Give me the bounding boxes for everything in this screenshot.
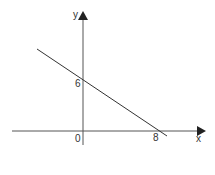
y-axis-label: y xyxy=(73,9,78,20)
graph: y x 6 0 8 xyxy=(0,0,215,175)
y-axis-arrow-icon xyxy=(78,11,88,20)
x-intercept-label: 8 xyxy=(153,132,159,143)
graph-line xyxy=(37,49,167,136)
origin-label: 0 xyxy=(75,133,81,144)
x-axis xyxy=(12,126,206,136)
x-axis-label: x xyxy=(196,133,201,144)
y-intercept-label: 6 xyxy=(75,78,81,89)
